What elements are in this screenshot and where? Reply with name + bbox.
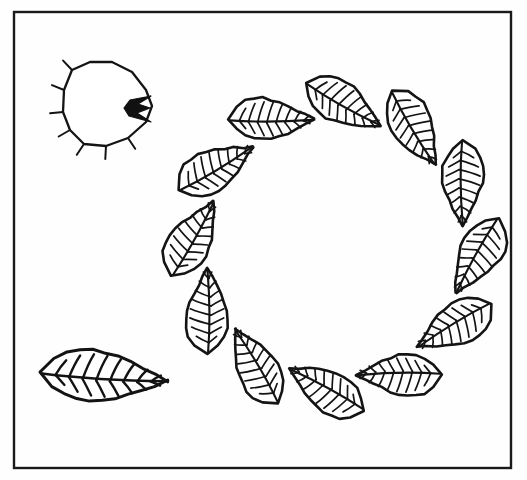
wreath-leaf-10	[152, 191, 232, 287]
wreath-leaf-7	[279, 351, 374, 429]
wreath-leaf-5	[407, 286, 503, 366]
wreath-leaf-11	[168, 128, 264, 208]
leaf-outline	[152, 191, 232, 287]
wreath-leaf-2	[374, 80, 454, 176]
wreath-leaf-9	[186, 268, 228, 354]
wreath-leaf-3	[442, 140, 484, 226]
leaf-outline	[279, 351, 374, 429]
leaf-wreath	[152, 65, 518, 430]
illustration-plate	[0, 0, 527, 480]
leaf-outline	[438, 208, 518, 304]
leaf-outline	[374, 80, 454, 176]
shell-tick-5	[77, 144, 84, 155]
leaf-outline	[168, 128, 264, 208]
wreath-leaf-1	[296, 65, 391, 144]
specimen-leaf	[38, 346, 169, 407]
shell-tick-2	[52, 85, 64, 90]
shell-detail	[50, 61, 152, 159]
shell-tick-7	[128, 138, 135, 149]
wreath-leaf-4	[438, 208, 518, 304]
wreath-leaf-12	[228, 97, 314, 139]
leaf-outline	[296, 65, 391, 144]
illustration-canvas	[0, 0, 527, 480]
shell-tick-1	[63, 61, 72, 70]
leaf-outline	[216, 319, 295, 414]
shell-tick-4	[59, 130, 70, 137]
detached-leaf-specimen	[38, 346, 169, 407]
shell-tick-3	[50, 112, 63, 113]
shell-tick-6	[105, 146, 106, 159]
leaf-outline	[407, 286, 503, 366]
wreath-leaf-8	[216, 319, 295, 414]
wreath-leaf-6	[356, 354, 442, 395]
